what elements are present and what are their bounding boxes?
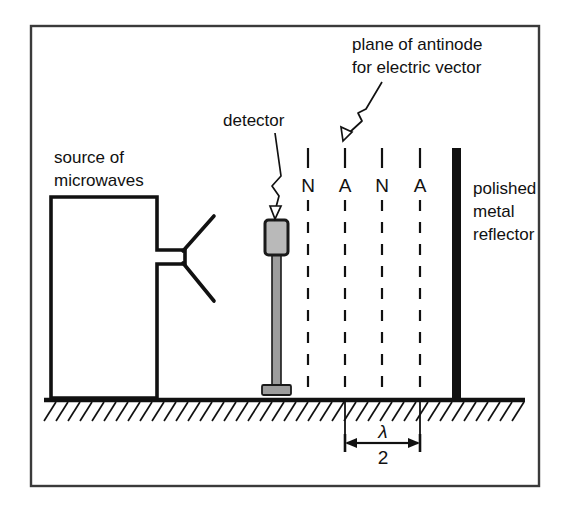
reflector-label-line3: reflector bbox=[473, 225, 535, 244]
antinode-label-line2: for electric vector bbox=[352, 58, 482, 77]
detector-label: detector bbox=[223, 111, 285, 130]
figure-root: source of microwaves detector N bbox=[0, 0, 581, 514]
plane-label-1: N bbox=[301, 175, 315, 196]
source-label-line2: microwaves bbox=[54, 171, 144, 190]
lambda-numerator: λ bbox=[377, 421, 387, 442]
microwave-standing-wave-diagram: source of microwaves detector N bbox=[0, 0, 581, 514]
polished-metal-reflector bbox=[452, 148, 461, 400]
reflector-label-line2: metal bbox=[473, 202, 515, 221]
detector-stand bbox=[272, 248, 281, 385]
detector-base bbox=[262, 385, 291, 395]
reflector-label-line1: polished bbox=[473, 179, 536, 198]
lambda-denominator: 2 bbox=[378, 447, 389, 468]
plane-label-2: A bbox=[339, 175, 352, 196]
plane-label-3: N bbox=[375, 175, 389, 196]
antinode-label-line1: plane of antinode bbox=[352, 35, 482, 54]
plane-label-4: A bbox=[414, 175, 427, 196]
detector-head bbox=[265, 220, 288, 255]
source-label-line1: source of bbox=[54, 148, 124, 167]
